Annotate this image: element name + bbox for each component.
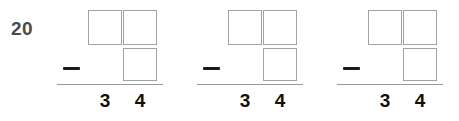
minus-sign-icon: [203, 67, 220, 70]
minuend-ones-box[interactable]: [123, 10, 157, 45]
minuend-tens-box[interactable]: [228, 10, 262, 45]
minuend-tens-box[interactable]: [368, 10, 402, 45]
minuend-ones-box[interactable]: [263, 10, 297, 45]
answer-tens-digit: 3: [228, 88, 262, 114]
subtrahend-ones-box[interactable]: [263, 48, 297, 81]
answer-ones-digit: 4: [403, 88, 437, 114]
exercise-number: 20: [11, 19, 33, 38]
minus-sign-icon: [63, 67, 80, 70]
answer-ones-digit: 4: [123, 88, 157, 114]
subtrahend-ones-box[interactable]: [403, 48, 437, 81]
subtrahend-ones-box[interactable]: [123, 48, 157, 81]
answer-tens-digit: 3: [88, 88, 122, 114]
minus-sign-icon: [343, 67, 360, 70]
answer-row: 3 4: [54, 88, 164, 114]
subtraction-problem: 3 4: [194, 0, 314, 121]
answer-rule: [197, 84, 303, 85]
subtraction-problem: 3 4: [334, 0, 454, 121]
subtraction-problem: 3 4: [54, 0, 174, 121]
answer-row: 3 4: [334, 88, 444, 114]
answer-rule: [337, 84, 443, 85]
minuend-ones-box[interactable]: [403, 10, 437, 45]
answer-tens-digit: 3: [368, 88, 402, 114]
answer-rule: [57, 84, 163, 85]
answer-row: 3 4: [194, 88, 304, 114]
minuend-tens-box[interactable]: [88, 10, 122, 45]
subtraction-worksheet: 20 3 4 3 4 3 4: [0, 0, 459, 121]
answer-ones-digit: 4: [263, 88, 297, 114]
